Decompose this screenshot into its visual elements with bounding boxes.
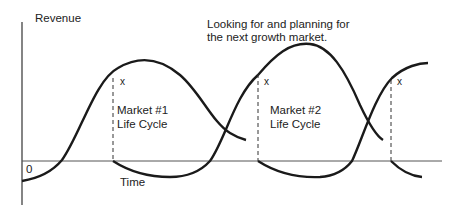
y-axis-label: Revenue [35, 12, 81, 25]
origin-label: 0 [26, 163, 32, 176]
marker-x-2: x [264, 76, 269, 87]
x-axis-label: Time [120, 176, 145, 189]
market1-label-line2: Life Cycle [117, 118, 168, 131]
marker-x-3: x [397, 76, 402, 87]
marker-x-1: x [120, 76, 125, 87]
market2-label-line2: Life Cycle [270, 118, 321, 131]
market1-label-line1: Market #1 [117, 104, 168, 117]
market2-label-line1: Market #2 [270, 104, 321, 117]
market4-dip [391, 161, 422, 177]
annotation-line1: Looking for and planning for [207, 18, 350, 31]
annotation-line2: the next growth market. [207, 31, 327, 44]
